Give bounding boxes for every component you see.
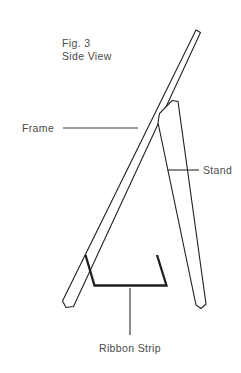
stand-label: Stand xyxy=(203,164,232,176)
figure-title-line-2: Side View xyxy=(62,50,112,62)
frame-label: Frame xyxy=(22,122,54,134)
figure-container: Fig. 3 Side View Frame Stand Ribbon Stri… xyxy=(0,0,241,373)
stand-part xyxy=(158,101,206,309)
figure-title-line-1: Fig. 3 xyxy=(62,37,90,49)
side-view-diagram: Fig. 3 Side View Frame Stand Ribbon Stri… xyxy=(0,0,241,373)
ribbon-strip-label: Ribbon Strip xyxy=(99,342,161,354)
ribbon-strip-part xyxy=(86,255,167,286)
